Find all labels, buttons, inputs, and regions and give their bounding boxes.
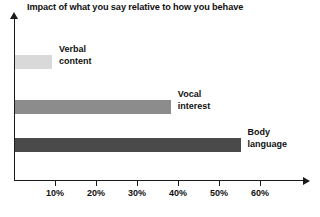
bar-label: Bodylanguage xyxy=(248,127,288,150)
x-axis-tick xyxy=(55,181,56,186)
x-axis-tick-label: 20% xyxy=(87,188,105,198)
x-axis-arrow-icon xyxy=(303,177,310,185)
bar-label-line1: Body xyxy=(248,127,288,139)
x-axis-tick-label: 60% xyxy=(251,188,269,198)
x-axis-tick-label: 40% xyxy=(169,188,187,198)
bar-label: Verbalcontent xyxy=(59,44,92,67)
x-axis-line xyxy=(14,180,305,181)
bar-label-line2: content xyxy=(59,56,92,68)
x-axis-tick xyxy=(137,181,138,186)
x-axis-tick-label: 50% xyxy=(210,188,228,198)
x-axis-tick xyxy=(96,181,97,186)
bar-label-line1: Vocal xyxy=(178,89,211,101)
chart-title: Impact of what you say relative to how y… xyxy=(27,2,317,12)
bar xyxy=(15,55,52,69)
x-axis-tick-label: 10% xyxy=(46,188,64,198)
x-axis-tick xyxy=(260,181,261,186)
x-axis-tick xyxy=(219,181,220,186)
bar xyxy=(15,100,171,114)
bar-label-line1: Verbal xyxy=(59,44,92,56)
bar-chart: Impact of what you say relative to how y… xyxy=(0,0,320,217)
bar-label-line2: interest xyxy=(178,101,211,113)
bar-label: Vocalinterest xyxy=(178,89,211,112)
x-axis-tick xyxy=(178,181,179,186)
bar xyxy=(15,138,241,152)
source-caption-cropped xyxy=(4,209,234,217)
y-axis-arrow-icon xyxy=(10,12,18,19)
x-axis-tick-label: 30% xyxy=(128,188,146,198)
bar-label-line2: language xyxy=(248,139,288,151)
